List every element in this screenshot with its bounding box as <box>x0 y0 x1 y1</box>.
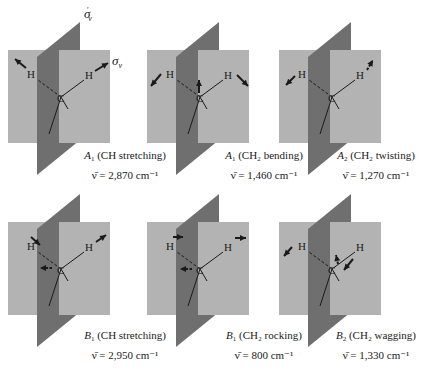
sigma-v-plane-right <box>198 50 249 143</box>
mode-title: A1 (CH stretching) <box>55 147 195 167</box>
hydrogen-atom-left-label: H <box>27 240 35 252</box>
mode-wavenumber: ν̄ = 2,870 cm⁻¹ <box>55 167 195 183</box>
hydrogen-atom-left-label: H <box>298 68 306 80</box>
mode-title: B1 (CH₂ rocking) <box>194 327 334 347</box>
mode-wavenumber: ν̄ = 1,460 cm⁻¹ <box>194 167 334 183</box>
caption-mode-3: A2 (CH₂ twisting) ν̄ = 1,270 cm⁻¹ <box>326 147 425 183</box>
mode-title: A1 (CH₂ bending) <box>194 147 334 167</box>
mode-wavenumber: ν̄ = 800 cm⁻¹ <box>194 347 334 363</box>
mode-wavenumber: ν̄ = 2,950 cm⁻¹ <box>55 347 195 363</box>
mode-title: B1 (CH stretching) <box>55 327 195 347</box>
mode-wavenumber: ν̄ = 1,270 cm⁻¹ <box>326 167 425 183</box>
hydrogen-atom-right-label: H <box>85 241 93 253</box>
hydrogen-atom-right-label: H <box>224 241 232 253</box>
caption-mode-2: A1 (CH₂ bending) ν̄ = 1,460 cm⁻¹ <box>194 147 334 183</box>
caption-mode-1: A1 (CH stretching) ν̄ = 2,870 cm⁻¹ <box>55 147 195 183</box>
hydrogen-atom-right-label: H <box>224 69 232 81</box>
hydrogen-atom-right-label: H <box>85 69 93 81</box>
sigma-v-plane-right <box>330 50 381 143</box>
hydrogen-atom-left-label: H <box>166 240 174 252</box>
mode-title: A2 (CH₂ twisting) <box>326 147 425 167</box>
hydrogen-atom-left-label: H <box>27 68 35 80</box>
caption-mode-6: B2 (CH₂ wagging) ν̄ = 1,330 cm⁻¹ <box>326 327 425 363</box>
mode-wavenumber: ν̄ = 1,330 cm⁻¹ <box>326 347 425 363</box>
hydrogen-atom-right-label: H <box>356 69 364 81</box>
sigma-v-plane-right <box>330 222 381 315</box>
vibrational-modes-figure: σ′v σv CHH CHH CHH CHH CHH CHH A1 (CH st… <box>0 0 425 370</box>
hydrogen-atom-left-label: H <box>298 240 306 252</box>
carbon-atom-label: C <box>196 264 203 276</box>
caption-mode-5: B1 (CH₂ rocking) ν̄ = 800 cm⁻¹ <box>194 327 334 363</box>
carbon-atom-label: C <box>328 92 335 104</box>
hydrogen-atom-left-label: H <box>166 68 174 80</box>
carbon-atom-label: C <box>57 264 64 276</box>
caption-mode-4: B1 (CH stretching) ν̄ = 2,950 cm⁻¹ <box>55 327 195 363</box>
hydrogen-atom-right-label: H <box>356 241 364 253</box>
carbon-atom-label: C <box>57 92 64 104</box>
carbon-atom-label: C <box>328 264 335 276</box>
carbon-atom-label: C <box>196 92 203 104</box>
mode-title: B2 (CH₂ wagging) <box>326 327 425 347</box>
